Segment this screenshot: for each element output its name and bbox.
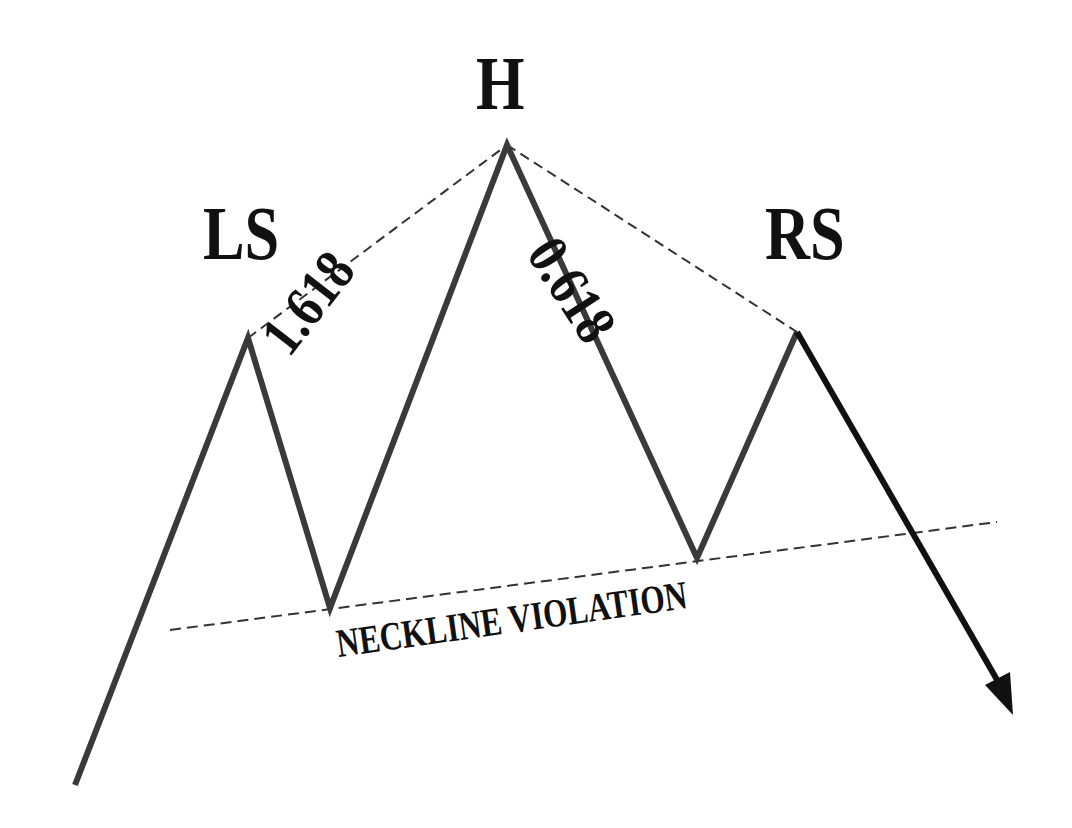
breakdown-arrow-line — [797, 332, 1000, 685]
arrow-head-icon — [985, 672, 1013, 715]
price-path-line — [75, 145, 797, 785]
head-label: H — [476, 40, 524, 127]
right-shoulder-label: RS — [765, 190, 845, 277]
head-and-shoulders-diagram — [0, 0, 1072, 828]
left-shoulder-label: LS — [203, 190, 279, 277]
